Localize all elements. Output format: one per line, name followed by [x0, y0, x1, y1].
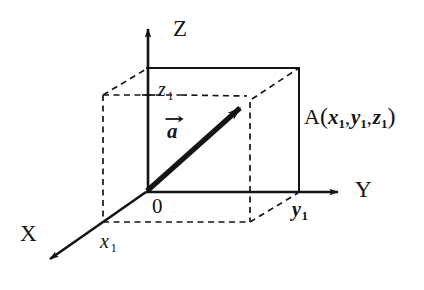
x-axis-label: X [20, 222, 37, 245]
origin-label: 0 [152, 196, 163, 217]
z1-subscript: 1 [167, 88, 174, 103]
vector-a-glyph-wrap: a [167, 118, 178, 142]
vector-overbar-arrow-icon [165, 114, 184, 123]
x1-subscript: 1 [110, 240, 117, 255]
z1-variable: z [158, 78, 166, 100]
vector-a-label: a [167, 118, 178, 142]
x1-tick-label: x1 [100, 231, 117, 254]
diagram-canvas: Z Y X 0 z1 x1 y1 a A(x1,y1,z1) [0, 0, 424, 290]
y1-subscript: 1 [301, 208, 308, 223]
y-axis-label: Y [355, 178, 372, 201]
x-axis-line [50, 192, 146, 259]
axes-group [50, 29, 338, 259]
edge-back-left-diagonal-top [103, 68, 148, 95]
point-a-y-variable: y [351, 105, 360, 129]
y1-tick-label: y1 [292, 199, 308, 222]
z-axis-label: Z [173, 17, 188, 40]
y1-variable: y [292, 198, 301, 220]
z1-tick-label: z1 [158, 79, 174, 102]
point-a-label: A(x1,y1,z1) [304, 104, 395, 130]
point-a-z-variable: z [373, 105, 381, 129]
point-a-close-paren: ) [387, 103, 395, 129]
vector-a-arrow [147, 108, 240, 191]
coordinate-system-drawing [0, 0, 424, 290]
edge-a-to-top-right-diagonal [252, 68, 299, 99]
point-a-name: A [304, 104, 320, 129]
point-a-x-variable: x [328, 105, 339, 129]
edge-bottom-to-y1-diagonal [250, 193, 298, 222]
x1-variable: x [100, 230, 109, 252]
point-a-open-paren: ( [320, 103, 328, 129]
guide-z1-to-point-a [181, 95, 247, 96]
